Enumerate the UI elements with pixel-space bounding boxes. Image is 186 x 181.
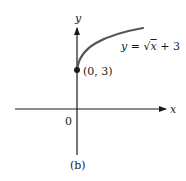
equation-label: y = √x + 3	[121, 41, 180, 52]
y-axis-label: y	[75, 13, 81, 24]
equation-suffix: + 3	[157, 40, 180, 53]
point-marker	[74, 67, 80, 73]
origin-label: 0	[65, 116, 72, 127]
graph-canvas	[0, 0, 186, 181]
equation-prefix: y =	[121, 40, 143, 53]
point-label: (0, 3)	[83, 66, 113, 77]
panel-label: (b)	[70, 160, 86, 171]
x-axis-label: x	[170, 104, 176, 115]
